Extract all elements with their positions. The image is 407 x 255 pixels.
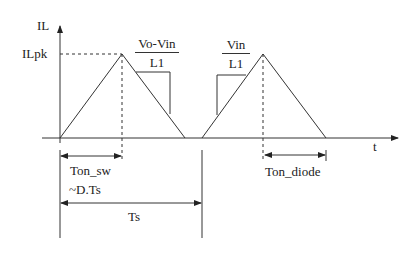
rising-slope-numerator: Vin — [222, 38, 250, 54]
y-axis-label: IL — [37, 19, 49, 32]
falling-slope-numerator: Vo-Vin — [135, 37, 179, 53]
peak-label: ILpk — [22, 47, 47, 60]
ton-sw-label: Ton_sw — [70, 164, 111, 177]
falling-slope-label: Vo-Vin L1 — [135, 37, 179, 69]
waveform-diagram — [0, 0, 407, 255]
falling-slope-denominator: L1 — [135, 53, 179, 69]
x-axis-label: t — [373, 140, 377, 153]
rising-slope-denominator: L1 — [222, 54, 250, 70]
ton-diode-label: Ton_diode — [265, 165, 320, 178]
ts-label: Ts — [128, 210, 140, 223]
current-triangle-2 — [202, 54, 326, 138]
ton-sw-approx-label: ~D.Ts — [69, 183, 101, 196]
rising-slope-indicator — [217, 75, 246, 115]
rising-slope-label: Vin L1 — [222, 38, 250, 70]
falling-slope-indicator — [136, 72, 170, 114]
